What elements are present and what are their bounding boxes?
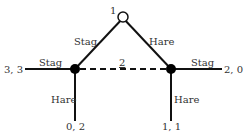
payoff-right-hare: 1, 1	[162, 121, 181, 132]
payoff-right-stag: 2, 0	[224, 64, 243, 75]
info-set-player-label: 2	[119, 57, 125, 68]
game-tree-diagram: 1 2 Stag Hare Stag Stag Hare Hare 3, 3 2…	[0, 0, 245, 135]
edge-label-left-hare: Hare	[51, 94, 76, 105]
left-decision-node	[70, 64, 80, 74]
edge-label-right-stag: Stag	[191, 57, 215, 68]
edge-label-right-hare: Hare	[174, 94, 199, 105]
right-decision-node	[166, 64, 176, 74]
payoff-left-hare: 0, 2	[66, 121, 85, 132]
edge-label-root-right: Hare	[149, 36, 174, 47]
root-player-label: 1	[110, 5, 116, 16]
payoff-left-stag: 3, 3	[4, 64, 23, 75]
root-node	[118, 12, 128, 22]
edge-label-root-left: Stag	[74, 36, 98, 47]
edge-label-left-stag: Stag	[39, 57, 63, 68]
